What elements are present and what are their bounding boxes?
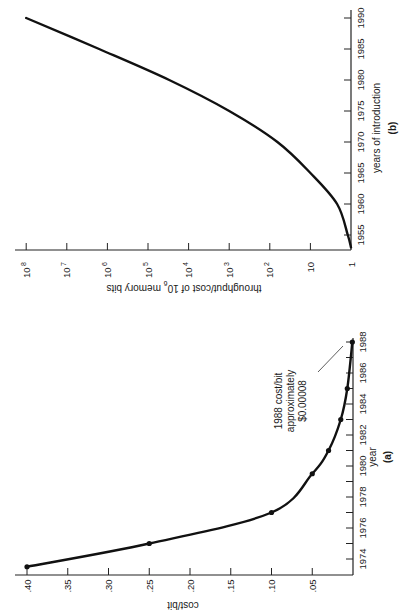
chart-a-xlabel: year xyxy=(367,447,378,467)
y-tick-label: 108 xyxy=(20,262,32,278)
svg-text:approximately: approximately xyxy=(285,370,296,432)
data-point xyxy=(310,471,315,476)
chart-a-y-ticks: .40.35.30.25.20.15.10.05 xyxy=(22,568,318,593)
y-tick-label: .15 xyxy=(225,579,236,592)
chart-b-x-ticks: 19551960196519701975198019851990 xyxy=(344,7,366,245)
chart-b-ylabel: throughput/cost of 106 memory bits xyxy=(106,280,261,294)
chart-b-line xyxy=(26,18,351,247)
data-point xyxy=(345,386,350,391)
y-tick-label: 103 xyxy=(223,262,235,278)
y-tick-label: 1 xyxy=(346,262,357,267)
y-tick-label: 104 xyxy=(182,262,194,278)
chart-a-annotation: 1988 cost/bit approximately $0.00008 xyxy=(273,346,343,432)
data-point xyxy=(147,541,152,546)
chart-a-panel-label: (a) xyxy=(382,451,393,463)
y-tick-label: .35 xyxy=(62,579,73,592)
y-tick-label: .40 xyxy=(22,579,33,592)
x-tick-label: 1980 xyxy=(355,69,366,90)
chart-b-xlabel: years of introduction xyxy=(371,83,382,173)
y-tick-label: .20 xyxy=(185,579,196,592)
annotation-leader-line xyxy=(318,346,343,372)
x-tick-label: 1990 xyxy=(355,7,366,28)
x-tick-label: 1984 xyxy=(357,393,368,414)
data-point xyxy=(350,339,355,344)
y-tick-label: 105 xyxy=(142,262,154,278)
x-tick-label: 1986 xyxy=(357,362,368,383)
x-tick-label: 1974 xyxy=(357,548,368,569)
y-tick-label: 102 xyxy=(263,262,275,278)
chart-a-ylabel: cost/bit xyxy=(167,600,199,611)
x-tick-label: 1982 xyxy=(357,424,368,445)
svg-text:$0.00008: $0.00008 xyxy=(297,380,308,422)
x-tick-label: 1985 xyxy=(355,38,366,59)
y-tick-label: .30 xyxy=(103,579,114,592)
data-point xyxy=(326,448,331,453)
y-tick-label: 10 xyxy=(305,262,316,273)
x-tick-label: 1976 xyxy=(357,517,368,538)
x-tick-label: 1975 xyxy=(355,100,366,121)
data-point xyxy=(338,417,343,422)
x-tick-label: 1988 xyxy=(357,331,368,352)
x-tick-label: 1970 xyxy=(355,131,366,152)
figure: 19551960196519701975198019851990 1101021… xyxy=(0,0,409,613)
x-tick-label: 1978 xyxy=(357,486,368,507)
chart-b-panel-label: (b) xyxy=(387,122,398,135)
chart-b-y-ticks: 110102103104105106107108 xyxy=(20,243,357,278)
data-point xyxy=(24,564,29,569)
chart-a: 19741976197819801982198419861988 .40.35.… xyxy=(15,331,393,611)
y-tick-label: .25 xyxy=(144,579,155,592)
x-tick-label: 1965 xyxy=(355,162,366,183)
x-tick-label: 1960 xyxy=(355,193,366,214)
svg-text:1988 cost/bit: 1988 cost/bit xyxy=(273,372,284,429)
y-tick-label: 107 xyxy=(60,262,72,278)
y-tick-label: .10 xyxy=(266,579,277,592)
x-tick-label: 1955 xyxy=(355,224,366,245)
y-tick-label: 106 xyxy=(101,262,113,278)
data-point xyxy=(269,510,274,515)
y-tick-label: .05 xyxy=(307,579,318,592)
chart-b: 19551960196519701975198019851990 1101021… xyxy=(15,7,398,294)
chart-a-line xyxy=(27,342,352,567)
